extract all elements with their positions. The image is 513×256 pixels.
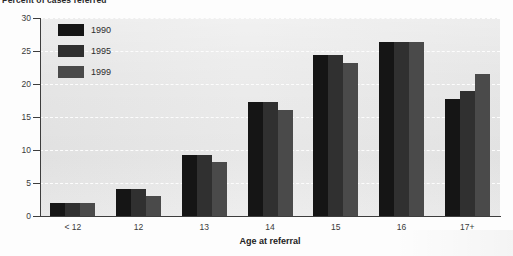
bar-group (445, 18, 490, 216)
y-tick-label: 5 (3, 178, 31, 188)
bar-group (313, 18, 358, 216)
y-tick-label: 0 (3, 211, 31, 221)
legend-item[interactable]: 1999 (58, 66, 111, 78)
y-tick-mark (33, 84, 40, 85)
bar[interactable] (65, 203, 80, 216)
bar-group (116, 18, 161, 216)
y-tick-label: 20 (3, 79, 31, 89)
legend-label: 1999 (91, 67, 111, 77)
bar[interactable] (212, 162, 227, 216)
bar[interactable] (445, 99, 460, 216)
bar[interactable] (379, 42, 394, 216)
bar[interactable] (328, 55, 343, 216)
y-tick-mark (33, 216, 40, 217)
bar[interactable] (131, 189, 146, 216)
x-axis-title: Age at referral (40, 236, 500, 246)
bar[interactable] (475, 74, 490, 216)
bar[interactable] (116, 189, 131, 216)
x-tick-label: 14 (265, 222, 274, 232)
bar[interactable] (263, 102, 278, 216)
legend-item[interactable]: 1995 (58, 45, 111, 57)
bar[interactable] (460, 91, 475, 216)
y-tick-mark (33, 183, 40, 184)
x-tick-label: < 12 (64, 222, 81, 232)
legend-swatch (58, 45, 84, 57)
bar[interactable] (50, 203, 65, 216)
legend-label: 1990 (91, 25, 111, 35)
bar[interactable] (394, 42, 409, 216)
legend-swatch (58, 24, 84, 36)
x-tick-label: 13 (200, 222, 209, 232)
legend-label: 1995 (91, 46, 111, 56)
bar[interactable] (313, 55, 328, 216)
y-tick-mark (33, 150, 40, 151)
bar[interactable] (146, 196, 161, 216)
y-tick-label: 15 (3, 112, 31, 122)
bar[interactable] (409, 42, 424, 216)
legend-item[interactable]: 1990 (58, 24, 111, 36)
x-tick-label: 12 (134, 222, 143, 232)
legend: 199019951999 (58, 24, 111, 78)
y-axis-line (40, 18, 41, 216)
bar-group (248, 18, 293, 216)
x-tick-label: 17+ (460, 222, 474, 232)
y-tick-label: 10 (3, 145, 31, 155)
y-tick-mark (33, 117, 40, 118)
bar[interactable] (278, 110, 293, 216)
y-tick-mark (33, 51, 40, 52)
legend-swatch (58, 66, 84, 78)
y-axis-ticks: 051015202530 (0, 0, 31, 256)
bar-group (182, 18, 227, 216)
x-tick-label: 15 (331, 222, 340, 232)
bar[interactable] (182, 155, 197, 216)
chart-page: Percent of cases referred 051015202530 <… (0, 0, 513, 256)
bar[interactable] (197, 155, 212, 216)
y-tick-label: 25 (3, 46, 31, 56)
y-tick-mark (33, 18, 40, 19)
bar[interactable] (343, 63, 358, 216)
bar[interactable] (248, 102, 263, 216)
bar[interactable] (80, 203, 95, 216)
y-tick-label: 30 (3, 13, 31, 23)
x-tick-label: 16 (397, 222, 406, 232)
x-axis-line (40, 216, 501, 217)
bar-group (379, 18, 424, 216)
